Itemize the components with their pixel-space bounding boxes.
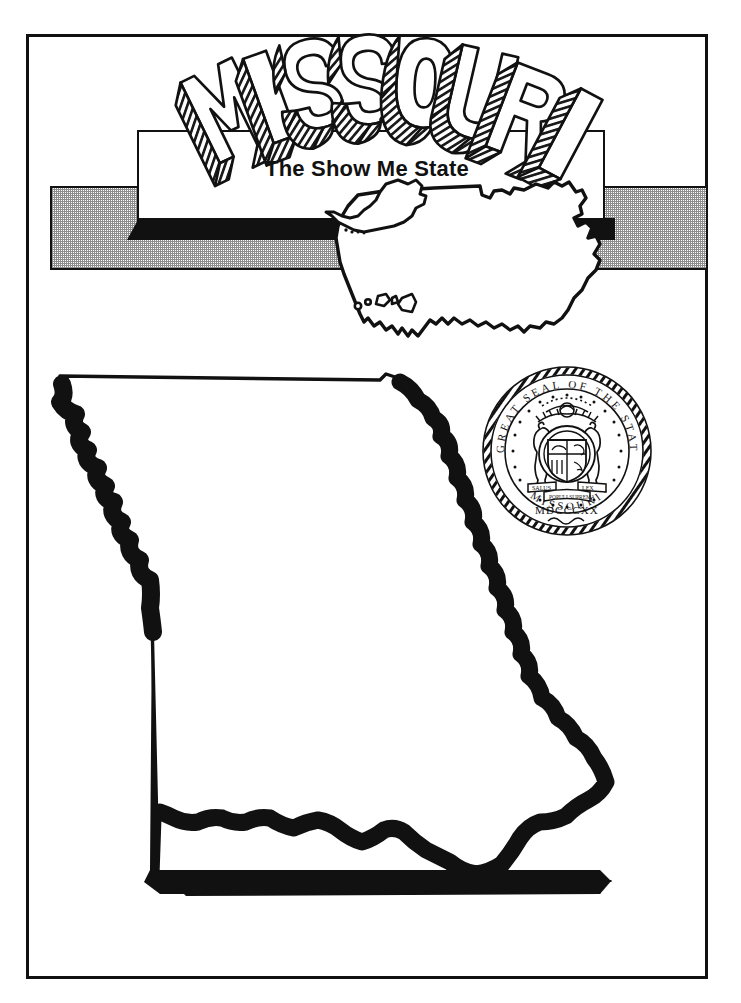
united-states-map [324,178,716,358]
southern-border-shadow-2 [172,880,612,896]
poster-page: The Show Me State [0,0,741,1003]
title-letter-S2 [324,32,403,146]
missouri-state-outline [40,370,680,960]
missouri-border-path [56,374,606,874]
